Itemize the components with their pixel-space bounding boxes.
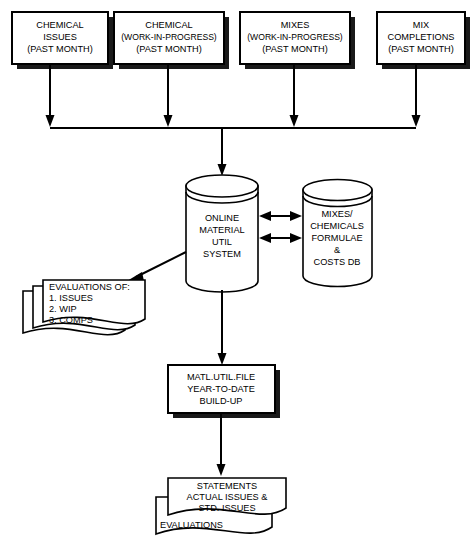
database-line: ONLINE — [205, 213, 239, 223]
cylinder-top — [186, 175, 258, 197]
database-line: & — [334, 245, 340, 255]
cylinder-top — [303, 180, 372, 201]
input-line: (PAST MONTH) — [136, 44, 202, 54]
input-line: CHEMICAL — [145, 20, 192, 30]
input-line: ISSUES — [43, 32, 77, 42]
database-line: MIXES/ — [321, 209, 353, 219]
input-line: COMPLETIONS — [388, 32, 455, 42]
evaluations-of-documents[interactable]: EVALUATIONS OF: 1. ISSUES 2. WIP 3. COMP… — [23, 280, 145, 335]
database-mixes-chemicals-formulae-costs[interactable]: MIXES/ CHEMICALS FORMULAE & COSTS DB — [303, 180, 372, 287]
process-line: MATL.UTIL.FILE — [187, 372, 255, 382]
database-line: CHEMICALS — [310, 221, 364, 231]
input-line: (PAST MONTH) — [388, 44, 454, 54]
database-line: UTIL — [212, 237, 232, 247]
input-line: (PAST MONTH) — [262, 44, 328, 54]
input-box-chemical-issues[interactable]: CHEMICAL ISSUES (PAST MONTH) — [12, 12, 113, 69]
input-line: MIXES — [281, 20, 310, 30]
statements-back-label: EVALUATIONS — [160, 520, 223, 530]
process-box-matl-util-file[interactable]: MATL.UTIL.FILE YEAR-TO-DATE BUILD-UP — [168, 365, 280, 418]
evaluations-line: 2. WIP — [49, 304, 77, 314]
input-line: MIX — [413, 20, 429, 30]
evaluations-line: 1. ISSUES — [49, 293, 93, 303]
material-utilisation-flowchart: CHEMICAL ISSUES (PAST MONTH) CHEMICAL (W… — [0, 0, 475, 558]
input-line: CHEMICAL — [36, 20, 83, 30]
database-line: COSTS DB — [314, 257, 361, 267]
statements-line: STATEMENTS — [197, 481, 257, 491]
statements-line: STD. ISSUES — [198, 503, 255, 513]
input-line: (PAST MONTH) — [27, 44, 93, 54]
input-box-mixes-wip[interactable]: MIXES (WORK-IN-PROGRESS) (PAST MONTH) — [240, 12, 355, 69]
input-box-chemical-wip[interactable]: CHEMICAL (WORK-IN-PROGRESS) (PAST MONTH) — [114, 12, 229, 69]
evaluations-line: 3. COMPS — [49, 315, 93, 325]
statements-line: ACTUAL ISSUES & — [187, 492, 268, 502]
database-online-material-util-system[interactable]: ONLINE MATERIAL UTIL SYSTEM — [186, 175, 258, 292]
input-line: (WORK-IN-PROGRESS) — [121, 32, 217, 42]
database-line: SYSTEM — [203, 249, 241, 259]
input-line: (WORK-IN-PROGRESS) — [247, 32, 343, 42]
evaluations-line: EVALUATIONS OF: — [49, 282, 130, 292]
database-line: MATERIAL — [199, 225, 244, 235]
statements-documents[interactable]: EVALUATIONS STATEMENTS ACTUAL ISSUES & S… — [156, 478, 286, 534]
process-line: BUILD-UP — [200, 396, 243, 406]
database-line: FORMULAE — [311, 233, 362, 243]
input-box-mix-completions[interactable]: MIX COMPLETIONS (PAST MONTH) — [377, 12, 470, 69]
process-line: YEAR-TO-DATE — [187, 384, 255, 394]
